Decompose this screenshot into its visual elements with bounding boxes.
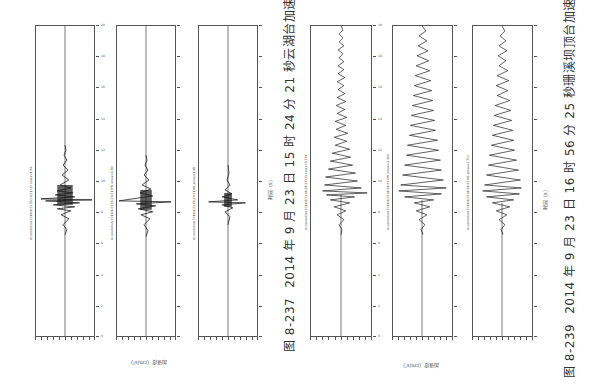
waveform-trace — [36, 26, 94, 336]
accel-axis-label: 加速度（cm/s²） — [400, 363, 439, 370]
time-axis: 20 18 16 14 12 10 8 6 4 2 0 — [373, 25, 381, 337]
waveform-trace — [393, 26, 452, 336]
figure-caption: 图 8-2392014 年 9 月 23 日 16 时 56 分 25 秒珊溪坝… — [560, 0, 577, 378]
time-axis — [177, 25, 185, 337]
time-axis-label: 时间（s） — [266, 177, 273, 200]
waveform-trace — [117, 26, 175, 336]
accel-axis — [472, 337, 533, 349]
caption-text: 2014 年 9 月 23 日 15 时 24 分 21 秒云湖台加速度记录 — [283, 0, 297, 288]
accel-axis — [198, 337, 258, 349]
time-axis-label: 时间（s） — [541, 187, 548, 210]
panel-title: Acceleration 2014/9/23 16:56:25 EW amax=… — [386, 154, 390, 230]
waveform-panel-ns — [198, 25, 258, 337]
caption-text: 2014 年 9 月 23 日 16 时 56 分 25 秒珊溪坝顶台加速度记录 — [563, 0, 577, 314]
accel-axis-label: 加速度（cm/s²） — [128, 360, 167, 367]
waveform-trace — [199, 26, 257, 336]
accel-axis — [392, 337, 453, 349]
panel-title: Acceleration 2014/9/23 15:24:21 NS amax=… — [192, 167, 196, 240]
panel-title: Acceleration 2014/9/23 15:24:21 EW amax=… — [110, 166, 114, 240]
waveform-panel-ew — [116, 25, 176, 337]
figure-caption: 图 8-2372014 年 9 月 23 日 15 时 24 分 21 秒云湖台… — [280, 0, 297, 352]
time-axis: 20 18 16 14 12 10 8 6 4 2 0 — [96, 25, 104, 337]
time-axis — [534, 25, 542, 337]
waveform-trace — [311, 26, 371, 336]
time-axis — [454, 25, 462, 337]
accel-axis — [116, 337, 176, 349]
panel-title: Acceleration 2014/9/23 15:24:21 UD amax=… — [29, 167, 33, 240]
waveform-panel-ud — [310, 25, 372, 337]
caption-number: 图 8-237 — [283, 298, 297, 352]
waveform-trace — [473, 26, 532, 336]
accel-axis — [35, 337, 95, 349]
waveform-panel-ns — [472, 25, 533, 337]
panel-title: Acceleration 2014/9/23 16:56:25 UD amax=… — [304, 155, 308, 230]
caption-number: 图 8-239 — [563, 324, 577, 378]
waveform-panel-ew — [392, 25, 453, 337]
panel-title: Acceleration 2014/9/23 16:56:25 NS amax=… — [466, 155, 470, 230]
accel-axis — [310, 337, 372, 349]
waveform-panel-ud — [35, 25, 95, 337]
